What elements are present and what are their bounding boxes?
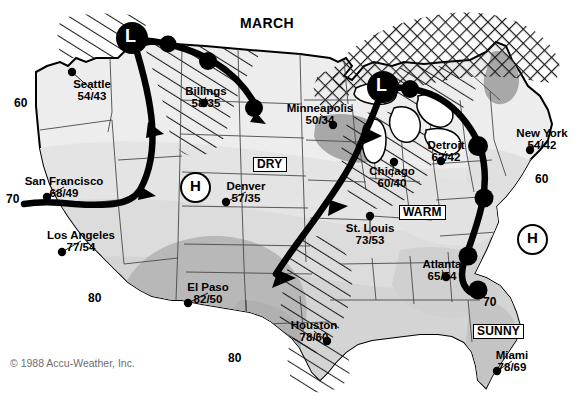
condition-label-warm: WARM xyxy=(399,205,446,220)
isotherm-label: 70 xyxy=(483,296,496,308)
city-label: Billings58/35 xyxy=(185,86,227,109)
city-name: Chicago xyxy=(369,166,414,178)
city-temperatures: 50/34 xyxy=(287,115,353,127)
isotherm-label: 80 xyxy=(88,292,101,304)
city-label: Minneapolis50/34 xyxy=(287,103,353,126)
city-temperatures: 62/42 xyxy=(427,152,464,164)
city-name: Atlanta xyxy=(423,259,462,271)
city-name: Houston xyxy=(291,320,338,332)
city-temperatures: 60/40 xyxy=(369,178,414,190)
city-temperatures: 58/35 xyxy=(185,98,227,110)
city-label: Miami78/69 xyxy=(496,350,529,373)
low-pressure-label-midwest: L xyxy=(376,76,387,94)
city-label: Denver57/35 xyxy=(227,181,266,204)
city-name: New York xyxy=(516,128,567,140)
city-temperatures: 82/50 xyxy=(187,294,229,306)
isotherm-label: 60 xyxy=(14,97,27,109)
copyright-notice: © 1988 Accu-Weather, Inc. xyxy=(10,358,135,369)
condition-label-dry: DRY xyxy=(253,157,287,172)
isotherm-label: 80 xyxy=(228,352,241,364)
city-name: St. Louis xyxy=(346,223,395,235)
page-title: MARCH xyxy=(240,16,294,30)
city-temperatures: 57/35 xyxy=(227,193,266,205)
city-label: Chicago60/40 xyxy=(369,166,414,189)
city-temperatures: 78/60 xyxy=(291,332,338,344)
city-dot xyxy=(366,212,374,220)
city-label: San Francisco68/49 xyxy=(25,176,104,199)
city-temperatures: 68/49 xyxy=(25,188,104,200)
city-temperatures: 78/69 xyxy=(496,362,529,374)
high-pressure-marker-atlantic: H xyxy=(517,224,548,255)
isotherm-label: 70 xyxy=(6,193,19,205)
condition-label-sunny: SUNNY xyxy=(473,324,524,339)
city-label: St. Louis73/53 xyxy=(346,223,395,246)
city-temperatures: 65/54 xyxy=(423,271,462,283)
city-name: Los Angeles xyxy=(47,230,115,242)
low-pressure-label-northwest: L xyxy=(125,27,136,45)
city-name: Minneapolis xyxy=(287,103,353,115)
city-label: Houston78/60 xyxy=(291,320,338,343)
city-dot xyxy=(68,68,76,76)
city-temperatures: 73/53 xyxy=(346,235,395,247)
city-label: Los Angeles77/54 xyxy=(47,230,115,253)
city-label: Atlanta65/54 xyxy=(423,259,462,282)
city-name: San Francisco xyxy=(25,176,104,188)
city-name: Detroit xyxy=(427,140,464,152)
city-temperatures: 54/42 xyxy=(516,140,567,152)
city-label: New York54/42 xyxy=(516,128,567,151)
city-name: Seattle xyxy=(73,79,111,91)
city-label: El Paso82/50 xyxy=(187,282,229,305)
city-temperatures: 54/43 xyxy=(73,91,111,103)
city-name: Denver xyxy=(227,181,266,193)
isotherm-label: 60 xyxy=(535,173,548,185)
city-label: Detroit62/42 xyxy=(427,140,464,163)
city-name: El Paso xyxy=(187,282,229,294)
city-temperatures: 77/54 xyxy=(47,242,115,254)
city-name: Miami xyxy=(496,350,529,362)
weather-map: MARCH © 1988 Accu-Weather, Inc. L L H H … xyxy=(0,0,583,407)
city-label: Seattle54/43 xyxy=(73,79,111,102)
map-graphics xyxy=(0,0,583,407)
city-name: Billings xyxy=(185,86,227,98)
high-pressure-marker-denver: H xyxy=(180,172,211,203)
